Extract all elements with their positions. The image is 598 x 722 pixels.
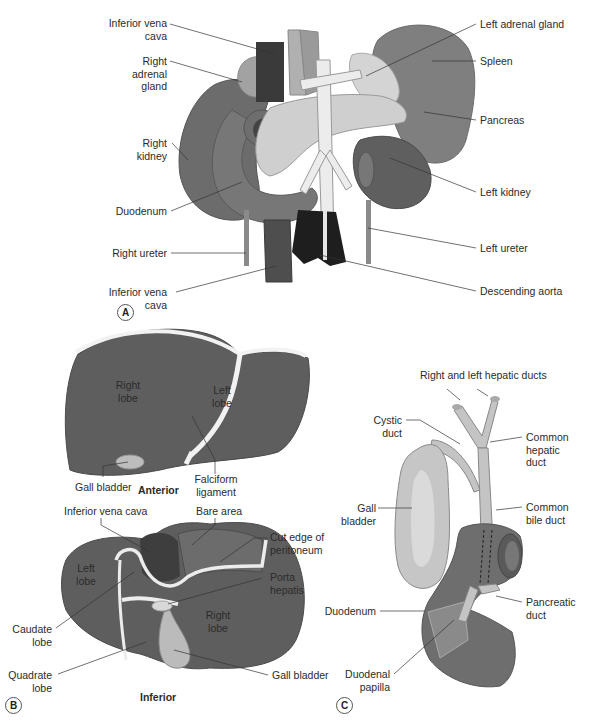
label-pancreatic-duct: Pancreatic duct (526, 596, 576, 621)
label-line: Inferior vena (105, 17, 167, 30)
label-inferior-left-lobe: Left lobe (68, 562, 104, 587)
label-cystic-duct: Cystic duct (356, 414, 402, 439)
label-caudate-lobe: Caudate lobe (0, 623, 52, 648)
label-line: cava (105, 30, 167, 43)
label-line: adrenal (105, 68, 167, 81)
panel-badge-c: C (336, 697, 353, 714)
label-line: lobe (68, 575, 104, 588)
label-line: duct (526, 609, 576, 622)
label-anterior-gall-bladder: Gall bladder (75, 481, 132, 494)
label-line: hepatis (270, 584, 304, 597)
label-right-adrenal-gland: Right adrenal gland (105, 55, 167, 93)
label-line: Right (105, 137, 167, 150)
label-line: Porta (270, 571, 304, 584)
label-pancreas: Pancreas (480, 114, 524, 127)
label-porta-hepatis: Porta hepatis (270, 571, 304, 596)
panel-a-illustration (179, 25, 475, 282)
label-duodenum: Duodenum (85, 205, 167, 218)
view-title-anterior: Anterior (138, 484, 179, 497)
label-line: lobe (0, 682, 52, 695)
label-ivc-bottom: Inferior vena cava (105, 286, 167, 311)
label-line: Caudate (0, 623, 52, 636)
label-ivc-top: Inferior vena cava (105, 17, 167, 42)
panel-badge-a: A (117, 304, 134, 321)
label-left-ureter: Left ureter (480, 242, 528, 255)
label-line: lobe (198, 622, 238, 635)
label-cut-edge-peritoneum: Cut edge of peritoneum (270, 531, 324, 556)
label-line: papilla (330, 681, 390, 694)
label-line: kidney (105, 150, 167, 163)
label-line: duct (526, 456, 569, 469)
label-spleen: Spleen (480, 55, 513, 68)
label-line: Left (202, 384, 242, 397)
label-right-left-hepatic-ducts: Right and left hepatic ducts (420, 369, 547, 382)
label-inferior-ivc: Inferior vena cava (64, 505, 147, 518)
label-inferior-right-lobe: Right lobe (198, 609, 238, 634)
label-line: lobe (0, 636, 52, 649)
label-line: lobe (108, 392, 148, 405)
label-line: lobe (202, 397, 242, 410)
label-left-adrenal-gland: Left adrenal gland (480, 18, 564, 31)
label-c-gall-bladder: Gall bladder (336, 502, 376, 527)
panel-b-inferior-illustration (62, 523, 305, 669)
label-duodenal-papilla: Duodenal papilla (330, 668, 390, 693)
label-line: Right (108, 379, 148, 392)
label-line: Cystic (356, 414, 402, 427)
label-right-ureter: Right ureter (85, 247, 167, 260)
label-line: Falciform (190, 473, 242, 486)
label-inferior-gall-bladder: Gall bladder (272, 669, 329, 682)
label-line: Inferior vena (105, 286, 167, 299)
label-right-kidney: Right kidney (105, 137, 167, 162)
anatomy-illustration (0, 0, 598, 722)
label-line: peritoneum (270, 544, 324, 557)
label-line: Right (198, 609, 238, 622)
panel-b-anterior-illustration (65, 329, 309, 475)
label-quadrate-lobe: Quadrate lobe (0, 669, 52, 694)
label-line: Quadrate (0, 669, 52, 682)
label-common-bile-duct: Common bile duct (526, 501, 569, 526)
label-line: gland (105, 80, 167, 93)
panel-badge-b: B (5, 697, 22, 714)
label-line: Gall (336, 502, 376, 515)
label-line: Right (105, 55, 167, 68)
label-line: Pancreatic (526, 596, 576, 609)
label-bare-area: Bare area (196, 505, 242, 518)
label-c-duodenum: Duodenum (316, 605, 376, 618)
label-line: bile duct (526, 514, 569, 527)
label-anterior-right-lobe: Right lobe (108, 379, 148, 404)
label-falciform-ligament: Falciform ligament (190, 473, 242, 498)
label-line: ligament (190, 486, 242, 499)
label-line: Common (526, 501, 569, 514)
view-title-inferior: Inferior (140, 691, 176, 704)
label-common-hepatic-duct: Common hepatic duct (526, 431, 569, 469)
label-line: Common (526, 431, 569, 444)
label-anterior-left-lobe: Left lobe (202, 384, 242, 409)
label-line: Duodenal (330, 668, 390, 681)
label-line: duct (356, 427, 402, 440)
label-line: hepatic (526, 444, 569, 457)
label-line: bladder (336, 515, 376, 528)
label-line: Cut edge of (270, 531, 324, 544)
label-line: cava (105, 299, 167, 312)
label-line: Left (68, 562, 104, 575)
label-descending-aorta: Descending aorta (480, 285, 562, 298)
label-left-kidney: Left kidney (480, 186, 531, 199)
